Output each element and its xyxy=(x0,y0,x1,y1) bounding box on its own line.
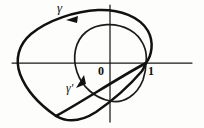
origin-label: 0 xyxy=(98,65,104,77)
gamma-inner-label: γ' xyxy=(66,82,73,94)
gamma-outer-label: γ xyxy=(57,1,62,14)
figure-canvas: γ γ' 0 1 xyxy=(0,0,204,128)
point-one-label: 1 xyxy=(148,65,154,77)
outer-direction-arrow-icon xyxy=(66,16,78,23)
outer-contour-curve xyxy=(18,10,152,120)
